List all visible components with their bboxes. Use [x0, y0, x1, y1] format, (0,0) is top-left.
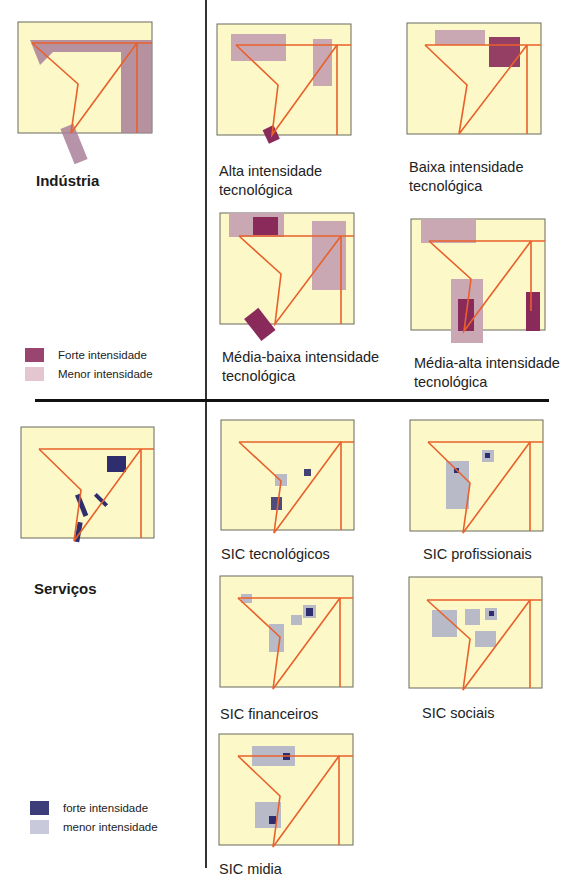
- map-sic-sociais: [409, 577, 543, 697]
- horizontal-divider: [35, 399, 549, 402]
- legend-item-forte: Forte intensidade: [25, 345, 153, 364]
- legend-swatch-forte: [25, 348, 44, 362]
- legend-item-menor-servicos: menor intensidade: [30, 817, 158, 836]
- caption-sic-profissionais: SIC profissionais: [423, 545, 532, 564]
- map-sic-financeiros: [220, 576, 354, 696]
- map-sic-tecnologicos: [221, 420, 355, 540]
- caption-sic-tecnologicos: SIC tecnológicos: [221, 545, 330, 564]
- services-legend: forte intensidade menor intensidade: [30, 798, 158, 836]
- vertical-divider: [205, 0, 207, 868]
- caption-sic-midia: SIC midia: [219, 860, 282, 879]
- caption-media-alta-intensidade: Média-alta intensidade tecnológica: [414, 354, 560, 392]
- industry-legend: Forte intensidade Menor intensidade: [25, 345, 153, 383]
- map-sic-midia: [219, 734, 353, 854]
- map-sic-profissionais: [410, 420, 544, 540]
- legend-item-menor: Menor intensidade: [25, 364, 153, 383]
- legend-swatch-menor: [25, 367, 44, 381]
- industry-overview-map: [18, 22, 152, 172]
- map-alta-intensidade: [217, 24, 351, 154]
- caption-alta-intensidade: Alta intensidade tecnológica: [219, 162, 322, 200]
- map-baixa-intensidade: [407, 23, 541, 143]
- legend-swatch-forte-servicos: [30, 801, 49, 815]
- industry-title: Indústria: [36, 172, 99, 189]
- services-overview-map: [21, 427, 155, 547]
- caption-baixa-intensidade: Baixa intensidade tecnológica: [409, 158, 523, 196]
- caption-sic-financeiros: SIC financeiros: [220, 705, 318, 724]
- caption-sic-sociais: SIC sociais: [422, 704, 495, 723]
- legend-swatch-menor-servicos: [30, 820, 49, 834]
- map-media-alta-intensidade: [411, 219, 545, 349]
- services-title: Serviços: [34, 580, 97, 597]
- map-media-baixa-intensidade: [220, 213, 354, 343]
- legend-item-forte-servicos: forte intensidade: [30, 798, 158, 817]
- caption-media-baixa-intensidade: Média-baixa intensidade tecnológica: [222, 348, 379, 386]
